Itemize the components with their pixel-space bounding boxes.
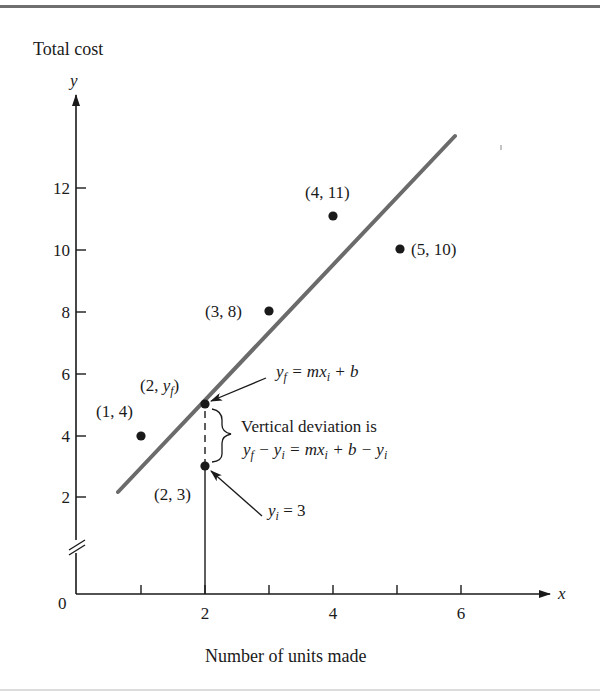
axis-break-mark <box>69 540 85 550</box>
y-axis <box>69 95 85 594</box>
x-tick-6: 6 <box>457 604 466 623</box>
label-5-10: (5, 10) <box>411 240 456 259</box>
y-tick-2: 2 <box>62 488 71 507</box>
observed-equation: yi = 3 <box>266 501 305 523</box>
y-tick-12: 12 <box>53 179 70 198</box>
x-tick-2: 2 <box>201 604 210 623</box>
x-axis-symbol: x <box>557 584 566 603</box>
point-4-11 <box>328 211 337 220</box>
fitted-equation: yf = mxi + b <box>274 362 359 384</box>
point-5-10 <box>395 244 404 253</box>
deviation-brace <box>212 409 231 462</box>
y-tick-10: 10 <box>53 241 70 260</box>
y-tick-labels: 12 10 8 6 4 2 <box>53 179 71 507</box>
point-2-3 <box>200 461 209 470</box>
label-2-yf: (2, yf) <box>140 376 179 398</box>
label-4-11: (4, 11) <box>305 183 350 202</box>
y-tick-4: 4 <box>62 427 71 446</box>
point-1-4 <box>136 431 145 440</box>
y-ticks <box>76 188 86 497</box>
y-axis-symbol: y <box>68 71 78 90</box>
y-tick-6: 6 <box>62 365 71 384</box>
label-2-3: (2, 3) <box>154 485 191 504</box>
arrow-to-yf <box>211 378 266 401</box>
x-ticks <box>141 585 461 594</box>
origin-label: 0 <box>58 594 67 613</box>
bottom-rule <box>0 689 600 691</box>
axis-break-mark <box>69 545 85 555</box>
regression-line <box>118 136 455 492</box>
x-tick-4: 4 <box>329 604 338 623</box>
y-tick-8: 8 <box>62 303 71 322</box>
arrow-to-yi <box>211 471 262 516</box>
y-axis-title: Total cost <box>33 39 103 59</box>
label-1-4: (1, 4) <box>96 402 133 421</box>
deviation-caption: Vertical deviation is <box>241 417 377 436</box>
x-tick-labels: 2 4 6 <box>201 604 466 623</box>
deviation-equation: yf − yi = mxi + b − yi <box>241 440 387 462</box>
point-2-yf <box>200 399 209 408</box>
regression-chart: Total cost y x Number of units made 12 1… <box>0 0 600 692</box>
x-axis-title: Number of units made <box>205 646 366 666</box>
label-3-8: (3, 8) <box>205 302 242 321</box>
point-3-8 <box>264 306 273 315</box>
